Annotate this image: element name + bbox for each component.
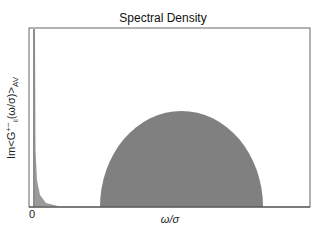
x-tick-0: 0 — [29, 208, 35, 220]
x-axis-label: ω/σ — [161, 213, 179, 225]
plot-area — [0, 0, 326, 231]
